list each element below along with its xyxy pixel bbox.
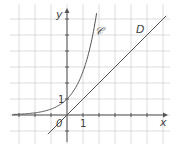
y-axis-label: y [55, 8, 63, 21]
y-axis-arrow-icon [65, 8, 70, 13]
curve-c-label: 𝒞 [95, 25, 106, 38]
line-d-label: D [136, 23, 144, 36]
y-tick-label: 1 [58, 94, 64, 105]
grid [10, 4, 170, 144]
line-d [48, 16, 166, 134]
x-tick-label: 1 [80, 118, 86, 129]
function-plot: y x 0 1 1 𝒞 D [0, 0, 177, 146]
origin-label: 0 [56, 118, 62, 129]
x-axis-label: x [159, 116, 167, 129]
